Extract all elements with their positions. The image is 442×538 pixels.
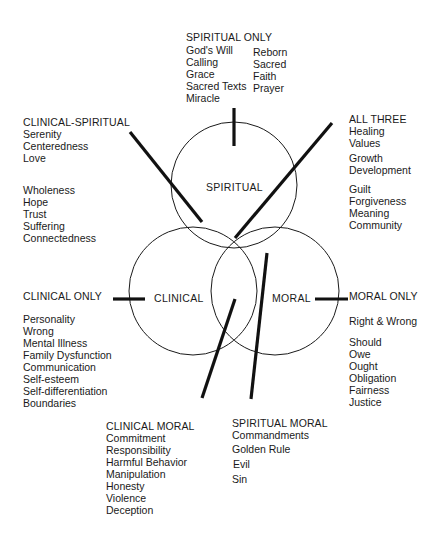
list-item: Growth — [349, 152, 411, 164]
list-item: Connectedness — [23, 232, 96, 244]
list-item: Responsibility — [106, 444, 195, 456]
clinical-only-group: CLINICAL ONLY — [23, 290, 102, 302]
list-item: Family Dysfunction — [23, 349, 112, 361]
clinical-spiritual-header: CLINICAL-SPIRITUAL — [23, 116, 130, 128]
moral-only-list-a: Right & Wrong — [349, 315, 417, 327]
list-item: Wholeness — [23, 184, 96, 196]
list-item: Communication — [23, 361, 112, 373]
all-three-group: ALL THREE Healing Values — [349, 113, 407, 149]
spiritual-moral-header: SPIRITUAL MORAL — [232, 417, 328, 429]
list-item: Sacred Texts — [186, 80, 247, 92]
list-item: Sacred — [253, 58, 287, 70]
clinical-only-list: Personality Wrong Mental Illness Family … — [23, 313, 112, 409]
list-item: Self-differentiation — [23, 385, 112, 397]
clinical-circle-label: CLINICAL — [154, 292, 204, 304]
spiritual-only-list-col2: Reborn Sacred Faith Prayer — [253, 46, 287, 94]
list-item: Guilt — [349, 183, 406, 195]
list-item: Forgiveness — [349, 195, 406, 207]
list-item: Justice — [349, 396, 396, 408]
clinical-moral-group: CLINICAL MORAL Commitment Responsibility… — [106, 420, 195, 516]
list-item: Manipulation — [106, 468, 195, 480]
moral-only-group: MORAL ONLY — [349, 290, 418, 302]
spiritual-only-header: SPIRITUAL ONLY — [186, 31, 272, 43]
list-item: Honesty — [106, 480, 195, 492]
list-item: Evil — [232, 458, 328, 470]
list-item: Love — [23, 152, 130, 164]
list-item: Hope — [23, 196, 96, 208]
spiritual-only-list-col1: God's Will Calling Grace Sacred Texts Mi… — [186, 44, 247, 104]
list-item: Centeredness — [23, 140, 130, 152]
list-item: Obligation — [349, 372, 396, 384]
list-item: Should — [349, 336, 396, 348]
list-item: Suffering — [23, 220, 96, 232]
clinical-spiritual-group: CLINICAL-SPIRITUAL Serenity Centeredness… — [23, 116, 130, 164]
list-item: Violence — [106, 492, 195, 504]
list-item: Self-esteem — [23, 373, 112, 385]
list-item: Grace — [186, 68, 247, 80]
list-item: Development — [349, 164, 411, 176]
list-item: Wrong — [23, 325, 112, 337]
all-three-header: ALL THREE — [349, 113, 407, 125]
list-item: Owe — [349, 348, 396, 360]
clinical-circle — [129, 227, 257, 355]
list-item: Personality — [23, 313, 112, 325]
list-item: Trust — [23, 208, 96, 220]
list-item: Golden Rule — [232, 443, 328, 455]
all-three-group-c: Guilt Forgiveness Meaning Community — [349, 183, 406, 231]
list-item: Fairness — [349, 384, 396, 396]
list-item: Values — [349, 137, 407, 149]
spiritual-moral-group: SPIRITUAL MORAL Commandments Golden Rule… — [232, 417, 328, 485]
clinical-moral-pointer — [202, 299, 235, 398]
all-three-group-b: Growth Development — [349, 152, 411, 176]
list-item: Meaning — [349, 207, 406, 219]
moral-only-list-b: Should Owe Ought Obligation Fairness Jus… — [349, 336, 396, 408]
list-item: Commitment — [106, 432, 195, 444]
list-item: Faith — [253, 70, 287, 82]
clinical-spiritual-pointer — [130, 132, 202, 222]
list-item: God's Will — [186, 44, 247, 56]
list-item: Healing — [349, 125, 407, 137]
spiritual-moral-pointer — [251, 253, 267, 399]
list-item: Ought — [349, 360, 396, 372]
list-item: Mental Illness — [23, 337, 112, 349]
list-item: Miracle — [186, 92, 247, 104]
list-item: Reborn — [253, 46, 287, 58]
list-item: Prayer — [253, 82, 287, 94]
clinical-only-header: CLINICAL ONLY — [23, 290, 102, 302]
clinical-moral-header: CLINICAL MORAL — [106, 420, 195, 432]
spiritual-only-group: SPIRITUAL ONLY — [186, 31, 272, 43]
list-item: Serenity — [23, 128, 130, 140]
list-item: Boundaries — [23, 397, 112, 409]
moral-circle-label: MORAL — [272, 292, 311, 304]
list-item: Commandments — [232, 429, 328, 441]
moral-only-header: MORAL ONLY — [349, 290, 418, 302]
clinical-spiritual-group-b: Wholeness Hope Trust Suffering Connected… — [23, 184, 96, 244]
list-item: Harmful Behavior — [106, 456, 195, 468]
list-item: Calling — [186, 56, 247, 68]
list-item: Sin — [232, 473, 328, 485]
moral-circle — [211, 227, 339, 355]
list-item: Community — [349, 219, 406, 231]
spiritual-circle-label: SPIRITUAL — [206, 181, 263, 193]
list-item: Right & Wrong — [349, 315, 417, 327]
list-item: Deception — [106, 504, 195, 516]
